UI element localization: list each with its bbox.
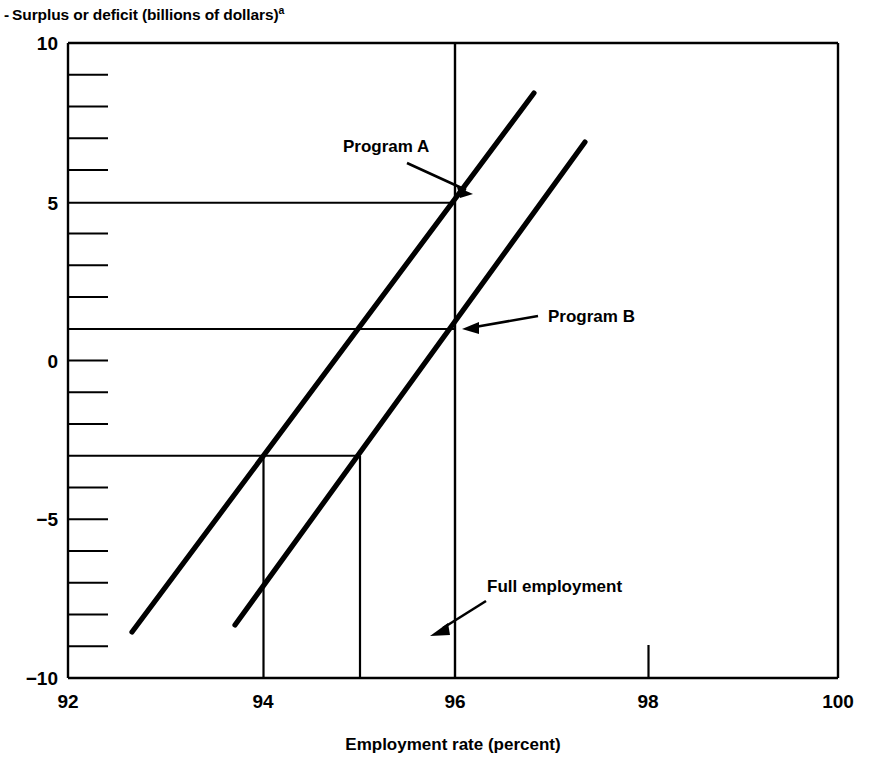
annotation-full-employment: Full employment — [430, 577, 622, 636]
annotation-program-a: Program A — [343, 137, 473, 198]
annotation-full-employment-leader — [443, 601, 486, 628]
data-series — [132, 93, 585, 632]
y-tick-label-10: 10 — [37, 33, 58, 54]
y-tick-label-0: 0 — [47, 351, 58, 372]
series-line-program-b — [235, 142, 585, 625]
x-tick-label-96: 96 — [444, 691, 465, 712]
y-axis-tick-labels: 10 5 0 −5 −10 — [26, 33, 59, 689]
y-tick-label-5: 5 — [47, 193, 58, 214]
annotation-program-b-label: Program B — [548, 307, 635, 326]
x-axis-title: Employment rate (percent) — [345, 735, 560, 754]
y-tick-label-m10: −10 — [26, 668, 58, 689]
chart-figure: -Surplus or deficit (billions of dollars… — [0, 0, 876, 773]
plot-frame — [68, 43, 838, 678]
annotation-program-b: Program B — [462, 307, 635, 334]
x-tick-label-100: 100 — [822, 691, 854, 712]
annotation-program-a-label: Program A — [343, 137, 429, 156]
chart-canvas: Program A Program B Full employment 10 5… — [0, 0, 876, 773]
annotation-program-a-leader — [407, 163, 466, 190]
annotation-program-b-leader — [475, 316, 538, 327]
annotation-full-employment-label: Full employment — [487, 577, 622, 596]
x-tick-label-92: 92 — [57, 691, 78, 712]
series-line-program-a — [132, 93, 534, 632]
x-tick-label-94: 94 — [252, 691, 274, 712]
y-axis-minor-ticks — [68, 75, 108, 647]
annotation-full-employment-arrowhead — [430, 623, 450, 636]
y-tick-label-m5: −5 — [36, 509, 58, 530]
x-axis-tick-labels: 92 94 96 98 100 — [57, 691, 853, 712]
x-tick-label-98: 98 — [637, 691, 658, 712]
annotation-program-b-arrowhead — [462, 322, 479, 334]
